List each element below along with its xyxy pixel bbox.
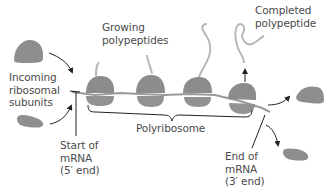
- start-pointer-tick: [70, 91, 80, 92]
- ribosome-2: [136, 75, 165, 107]
- end-pointer-line: [252, 115, 265, 148]
- release-arrow-small: [266, 125, 278, 145]
- incoming-small-subunit: [17, 115, 43, 128]
- released-small-subunit: [283, 148, 308, 160]
- incoming-arrow-top: [49, 53, 72, 72]
- polypeptide-1: [96, 62, 99, 76]
- polypeptide-2: [147, 55, 152, 74]
- polyribosome-bracket: [88, 105, 252, 121]
- incoming-large-subunit: [14, 40, 43, 63]
- label-polyribosome: Polyribosome: [136, 122, 205, 135]
- ribosome-1: [86, 76, 114, 106]
- ribosome-3: [183, 77, 212, 107]
- release-arrow-large: [268, 97, 289, 105]
- label-growing-polypeptides: Growing polypeptides: [102, 21, 168, 46]
- incoming-arrow-bottom: [50, 106, 71, 124]
- completed-polypeptide: [235, 24, 264, 63]
- polypeptide-3: [199, 24, 210, 77]
- label-incoming-subunits: Incoming ribosomal subunits: [9, 71, 60, 109]
- label-start-of-mrna: Start of mRNA (5′ end): [60, 139, 100, 177]
- label-end-of-mrna: End of mRNA (3′ end): [225, 150, 265, 188]
- ribosome-4: [228, 83, 256, 114]
- label-completed-polypeptide: Completed polypeptide: [255, 4, 316, 29]
- released-large-subunit: [296, 86, 324, 103]
